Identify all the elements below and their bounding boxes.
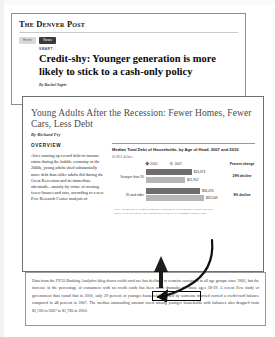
bar-2007-older	[146, 195, 204, 201]
report-byline: By Richard Fry	[31, 132, 255, 137]
article-headline: Credit-shy: Younger generation is more l…	[12, 51, 245, 78]
quoted-paragraph-block: Data from the FICO Banking Analytics blo…	[25, 272, 266, 326]
chart-group-35-and-older: 35 and older $30,070 $32,543 8% decline	[112, 187, 255, 202]
legend-entry-2010: 2010	[146, 162, 157, 166]
highlight-annotation-box	[152, 291, 201, 301]
legend-entry-2007: 2007	[170, 162, 181, 166]
bar-row-2007: $21,912	[146, 177, 229, 184]
bar-value-2007-older: $32,543	[204, 196, 218, 200]
nav-item-news[interactable]: News	[39, 37, 56, 44]
site-nav[interactable]: Home News	[12, 33, 245, 44]
bar-value-2010-older: $30,070	[200, 189, 214, 193]
denver-post-masthead: The Denver Post	[12, 14, 245, 29]
bar-value-2007-younger: $21,912	[185, 178, 199, 182]
legend-swatch-2007-icon	[170, 162, 174, 166]
pew-report-page: Young Adults After the Recession: Fewer …	[22, 96, 264, 272]
quoted-paragraph-text: Data from the FICO Banking Analytics blo…	[32, 277, 259, 314]
article-byline: By Rachel Sapin	[12, 78, 245, 87]
legend-label-2010: 2010	[150, 162, 157, 166]
chart-category-label: 35 and older	[112, 193, 146, 197]
overview-heading: OVERVIEW	[31, 143, 105, 148]
chart-legend: 2010 2007 Percent change	[112, 162, 255, 166]
overview-body-text: After running up record debt-to-income r…	[31, 153, 105, 203]
chart-group-younger-than-35: Younger than 35 $25,473 $21,912 29% decl…	[112, 169, 255, 184]
legend-swatch-2010-icon	[145, 162, 149, 166]
chart-subtitle: In 2011 dollars	[112, 155, 255, 159]
denver-post-article-page: The Denver Post Home News SMART Credit-s…	[11, 13, 246, 105]
bar-2007-younger	[146, 177, 185, 183]
percent-change-younger: 29% decline	[229, 174, 255, 178]
scan-edge-top	[0, 0, 275, 5]
scan-edge-left	[0, 0, 4, 337]
chart-top-rule	[112, 143, 255, 144]
chart-notes: Note: The median is estimated among all …	[112, 207, 255, 215]
bar-row-2010: $30,070	[146, 187, 229, 194]
legend-label-2007: 2007	[175, 162, 182, 166]
percent-change-header: Percent change	[229, 162, 255, 166]
bar-2010-younger	[146, 169, 192, 175]
bar-value-2010-younger: $25,473	[192, 170, 206, 174]
bar-2010-older	[146, 188, 200, 194]
chart-column: Median Total Debt of Households, by Age …	[112, 143, 255, 215]
overview-column: OVERVIEW After running up record debt-to…	[31, 143, 105, 215]
nav-item-home[interactable]: Home	[19, 37, 36, 44]
chart-source: Source: Pew Research Center tabulations …	[114, 211, 255, 215]
bar-row-2010: $25,473	[146, 169, 229, 176]
report-title: Young Adults After the Recession: Fewer …	[31, 108, 255, 130]
chart-category-label: Younger than 35	[112, 175, 146, 179]
chart-title: Median Total Debt of Households, by Age …	[112, 147, 255, 153]
percent-change-older: 8% decline	[229, 193, 255, 197]
bar-row-2007: $32,543	[146, 195, 229, 202]
article-kicker: SMART	[12, 44, 245, 51]
